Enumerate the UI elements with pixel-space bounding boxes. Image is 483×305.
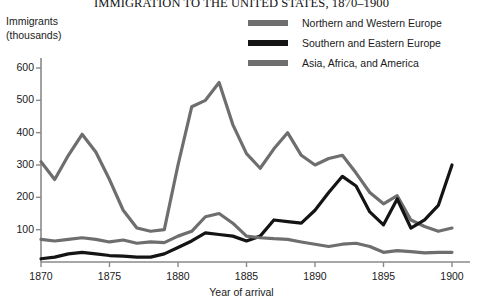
series-line-1	[41, 165, 452, 259]
x-axis-title: Year of arrival	[0, 286, 483, 298]
series-line-2	[41, 214, 452, 253]
immigration-line-chart: IMMIGRATION TO THE UNITED STATES, 1870–1…	[0, 0, 483, 305]
plot-area	[0, 0, 483, 305]
